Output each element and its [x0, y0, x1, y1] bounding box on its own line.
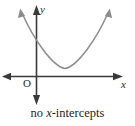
caption-suffix: -intercepts: [52, 106, 105, 120]
y-axis-label: y: [40, 4, 45, 15]
caption-prefix: no: [31, 106, 47, 120]
x-axis-left-arrow-icon: [2, 73, 11, 80]
parabola-figure: y x O no x-intercepts: [0, 0, 135, 126]
parabola-curve: [22, 13, 108, 69]
figure-caption: no x-intercepts: [0, 107, 135, 121]
origin-label: O: [23, 78, 31, 89]
x-axis-label: x: [121, 79, 126, 90]
y-axis-down-arrow-icon: [33, 95, 40, 105]
